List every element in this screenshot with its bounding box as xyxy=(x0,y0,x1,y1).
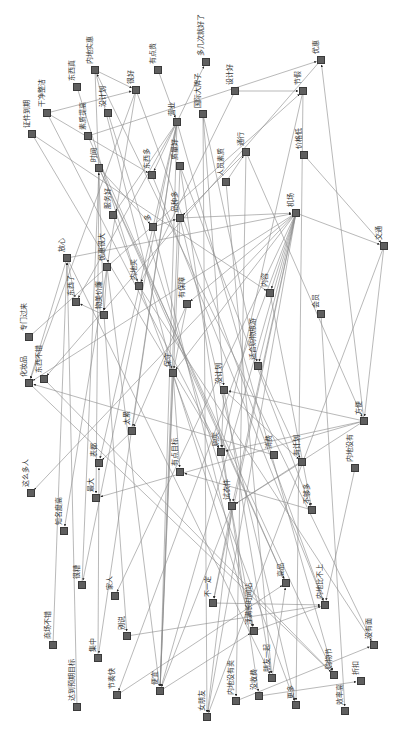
node-n52[interactable] xyxy=(308,506,316,514)
node-n8[interactable] xyxy=(154,66,162,74)
node-n21[interactable] xyxy=(63,254,71,262)
edge xyxy=(259,213,296,361)
node-n66[interactable] xyxy=(370,641,378,649)
node-n72[interactable] xyxy=(292,701,300,709)
node-n11[interactable] xyxy=(231,87,239,95)
node-n30[interactable] xyxy=(183,300,191,308)
node-label: 素质提高 xyxy=(80,102,87,130)
node-n45[interactable] xyxy=(60,527,68,535)
node-n3[interactable] xyxy=(73,83,81,91)
node-label: 这么多人 xyxy=(23,459,30,487)
node-n54[interactable] xyxy=(111,592,119,600)
node-n13[interactable] xyxy=(173,118,181,126)
node-n12[interactable] xyxy=(317,56,325,64)
node-label: 专门过来 xyxy=(21,303,28,331)
node-n6[interactable] xyxy=(104,109,112,117)
node-n60[interactable] xyxy=(156,687,164,695)
node-n24[interactable] xyxy=(176,214,184,222)
node-n37[interactable] xyxy=(220,386,228,394)
node-n32[interactable] xyxy=(380,242,388,250)
node-label: 东西真 xyxy=(69,60,76,81)
node-n44[interactable] xyxy=(92,494,100,502)
node-n41[interactable] xyxy=(27,489,35,497)
node-n2[interactable] xyxy=(43,109,51,117)
node-n70[interactable] xyxy=(232,697,240,705)
node-n4[interactable] xyxy=(91,66,99,74)
node-n53[interactable] xyxy=(78,581,86,589)
edge xyxy=(97,74,374,645)
node-label: 适合购物旅游 xyxy=(250,318,257,360)
node-label: 内地实惠 xyxy=(87,36,94,64)
node-n5[interactable] xyxy=(84,132,92,140)
node-n1[interactable] xyxy=(28,130,36,138)
node-n34[interactable] xyxy=(317,310,325,318)
node-n64[interactable] xyxy=(321,601,329,609)
node-n71[interactable] xyxy=(255,692,263,700)
node-n9[interactable] xyxy=(202,58,210,66)
node-n51[interactable] xyxy=(228,502,236,510)
node-n47[interactable] xyxy=(360,417,368,425)
node-label: 化妆品 xyxy=(21,356,28,377)
node-n25[interactable] xyxy=(103,263,111,271)
node-n27[interactable] xyxy=(72,298,80,306)
node-n73[interactable] xyxy=(341,707,349,715)
node-n16[interactable] xyxy=(148,171,156,179)
node-n10[interactable] xyxy=(199,110,207,118)
node-n65[interactable] xyxy=(250,627,258,635)
node-label: 会员 xyxy=(313,294,320,308)
node-n58[interactable] xyxy=(73,703,81,711)
node-label: 购物节 xyxy=(326,648,333,669)
node-n68[interactable] xyxy=(330,671,338,679)
node-n15[interactable] xyxy=(95,164,103,172)
node-label: 表都 xyxy=(91,443,98,457)
node-n62[interactable] xyxy=(209,599,217,607)
edge xyxy=(107,267,159,686)
node-n63[interactable] xyxy=(282,579,290,587)
node-label: 浮满长时间站 xyxy=(246,583,253,625)
node-label: 女朋友 xyxy=(199,690,206,711)
edge xyxy=(47,91,131,113)
node-label: 没计划 xyxy=(100,86,107,107)
node-n39[interactable] xyxy=(40,375,48,383)
node-n18[interactable] xyxy=(222,178,230,186)
node-n40[interactable] xyxy=(128,427,136,435)
node-n56[interactable] xyxy=(123,632,131,640)
node-label: 商场不错 xyxy=(45,611,52,639)
node-n38[interactable] xyxy=(25,379,33,387)
node-n42[interactable] xyxy=(95,459,103,467)
node-n61[interactable] xyxy=(203,713,211,721)
node-n69[interactable] xyxy=(357,677,365,685)
node-n48[interactable] xyxy=(270,451,278,459)
node-n20[interactable] xyxy=(300,151,308,159)
node-n57[interactable] xyxy=(94,654,102,662)
node-label: 不一定 xyxy=(205,576,212,597)
node-n29[interactable] xyxy=(25,333,33,341)
node-n46[interactable] xyxy=(217,448,225,456)
edge xyxy=(322,65,364,421)
node-n14[interactable] xyxy=(299,87,307,95)
edge xyxy=(209,246,384,712)
node-n35[interactable] xyxy=(254,362,262,370)
node-label: 质量好 xyxy=(172,139,179,160)
node-label: 有保障 xyxy=(179,277,186,298)
node-n19[interactable] xyxy=(242,148,250,156)
node-n43[interactable] xyxy=(176,468,184,476)
node-n22[interactable] xyxy=(109,211,117,219)
node-n7[interactable] xyxy=(132,86,140,94)
node-n55[interactable] xyxy=(49,641,57,649)
node-label: 品种多 xyxy=(172,191,179,212)
node-n50[interactable] xyxy=(351,464,359,472)
node-n28[interactable] xyxy=(100,311,108,319)
edge xyxy=(176,213,296,369)
node-n23[interactable] xyxy=(149,223,157,231)
node-n67[interactable] xyxy=(268,674,276,682)
node-label: 物美价廉 xyxy=(96,281,103,309)
edge xyxy=(108,90,136,262)
node-n17[interactable] xyxy=(176,162,184,170)
node-n36[interactable] xyxy=(169,369,177,377)
node-n31[interactable] xyxy=(292,209,300,217)
node-n59[interactable] xyxy=(113,691,121,699)
node-n49[interactable] xyxy=(298,458,306,466)
node-n33[interactable] xyxy=(266,289,274,297)
node-n26[interactable] xyxy=(135,282,143,290)
